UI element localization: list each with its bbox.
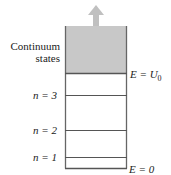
- energy-level-diagram: [0, 0, 171, 175]
- continuum-region: [65, 26, 126, 73]
- continuum-label: Continuum states: [8, 40, 60, 64]
- level-label-n3: n = 3: [33, 89, 57, 101]
- level-label-n1: n = 1: [33, 151, 57, 163]
- top-energy-label: E = U0: [130, 68, 162, 85]
- top-energy-subscript: 0: [158, 74, 162, 83]
- bottom-energy-label: E = 0: [129, 163, 154, 175]
- level-label-n2: n = 2: [33, 124, 57, 136]
- continuum-label-line2: states: [8, 52, 60, 64]
- continuum-label-line1: Continuum: [8, 40, 60, 52]
- arrow-up-icon: [88, 5, 104, 27]
- top-energy-text: E = U: [130, 68, 158, 80]
